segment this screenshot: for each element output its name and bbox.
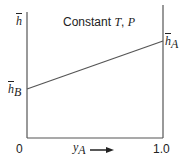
y-axis-label: h [16, 14, 22, 29]
chart-title: Constant T, P [63, 15, 135, 30]
x-tick-1: 1.0 [153, 142, 170, 156]
hB-label: hB [8, 82, 21, 100]
x-axis-label: yA [73, 140, 86, 158]
enthalpy-line [27, 41, 163, 89]
x-tick-0: 0 [16, 142, 23, 156]
hA-label: hA [165, 34, 178, 52]
arrow-head-icon [106, 147, 114, 153]
